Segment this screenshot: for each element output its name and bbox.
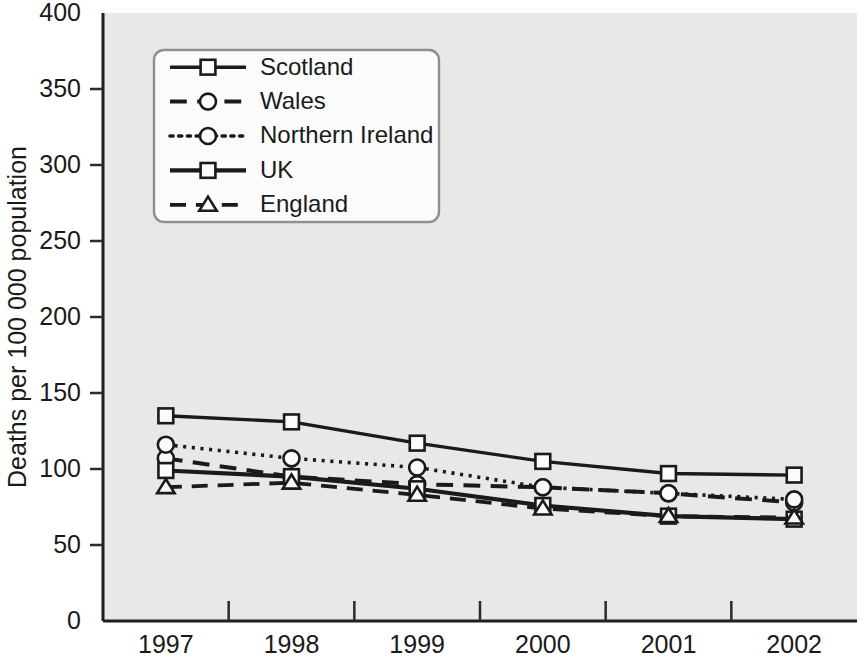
legend-label-uk: UK <box>260 156 293 183</box>
y-tick-label: 400 <box>39 0 81 26</box>
y-tick-label: 350 <box>39 74 81 102</box>
x-tick-label: 1999 <box>389 630 445 658</box>
data-point-uk-1997 <box>158 463 173 478</box>
legend-label-england: England <box>260 190 348 217</box>
data-point-scotland-2002 <box>787 468 802 483</box>
legend-label-northern-ireland: Northern Ireland <box>260 121 433 148</box>
y-tick-label: 250 <box>39 226 81 254</box>
data-point-northern-ireland-2000 <box>535 479 551 495</box>
legend: ScotlandWalesNorthern IrelandUKEngland <box>154 50 439 222</box>
data-point-scotland-1997 <box>158 408 173 423</box>
data-point-northern-ireland-1997 <box>158 437 174 453</box>
legend-label-scotland: Scotland <box>260 53 353 80</box>
y-tick-label: 50 <box>53 530 81 558</box>
x-tick-label: 2002 <box>766 630 822 658</box>
data-point-scotland-2000 <box>535 454 550 469</box>
y-tick-label: 200 <box>39 302 81 330</box>
legend-marker-northern-ireland <box>200 128 216 144</box>
data-point-northern-ireland-2001 <box>661 485 677 501</box>
data-point-scotland-2001 <box>661 466 676 481</box>
x-tick-label: 2001 <box>641 630 697 658</box>
y-axis-title: Deaths per 100 000 population <box>3 146 31 488</box>
line-chart: 050100150200250300350400Deaths per 100 0… <box>0 0 865 664</box>
legend-marker-uk <box>201 163 216 178</box>
data-point-scotland-1999 <box>410 436 425 451</box>
legend-marker-wales <box>200 94 216 110</box>
data-point-northern-ireland-2002 <box>786 491 802 507</box>
x-tick-label: 1997 <box>138 630 194 658</box>
y-tick-label: 100 <box>39 454 81 482</box>
x-tick-label: 2000 <box>515 630 571 658</box>
data-point-northern-ireland-1999 <box>409 459 425 475</box>
y-tick-label: 300 <box>39 150 81 178</box>
y-tick-label: 0 <box>67 606 81 634</box>
chart-figure: 050100150200250300350400Deaths per 100 0… <box>0 0 865 664</box>
y-tick-label: 150 <box>39 378 81 406</box>
x-tick-label: 1998 <box>264 630 320 658</box>
data-point-northern-ireland-1998 <box>284 450 300 466</box>
y-axis: 050100150200250300350400 <box>39 0 103 634</box>
legend-label-wales: Wales <box>260 87 326 114</box>
data-point-scotland-1998 <box>284 414 299 429</box>
legend-marker-scotland <box>201 60 216 75</box>
